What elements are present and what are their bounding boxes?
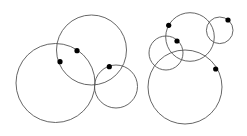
- point-dot: [166, 23, 171, 28]
- point-dot: [213, 66, 218, 71]
- left-group: [16, 15, 138, 123]
- point-dot: [57, 59, 62, 64]
- circle-outline: [57, 15, 127, 85]
- right-group: [148, 13, 233, 124]
- circle-outline: [166, 13, 215, 62]
- circle-outline: [16, 44, 95, 123]
- circle-diagram: [0, 0, 247, 136]
- point-dot: [225, 17, 230, 22]
- diagram-svg: [0, 0, 247, 136]
- point-dot: [107, 64, 112, 69]
- point-dot: [174, 38, 179, 43]
- circle-outline: [95, 65, 138, 108]
- point-dot: [74, 48, 79, 53]
